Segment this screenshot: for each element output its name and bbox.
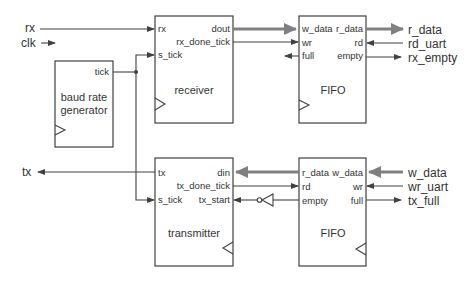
- rx-fifo-r-data-port-label: r_data: [336, 23, 364, 34]
- tx-fifo-wr-port-label: wr: [352, 181, 363, 192]
- rx-fifo-empty-port-label: empty: [337, 50, 363, 61]
- rx-fifo-wr-port-label: wr: [301, 37, 312, 48]
- transmitter-tx-done-tick-port-label: tx_done_tick: [177, 180, 231, 191]
- tick-to-transmitter-wire: [136, 72, 154, 200]
- rd-uart-signal-label: rd_uart: [408, 37, 447, 51]
- receiver-block: rx s_tick dout rx_done_tick receiver: [155, 16, 233, 123]
- rx-fifo-rd-port-label: rd: [355, 37, 363, 48]
- rx-fifo-block-label: FIFO: [320, 84, 345, 96]
- uart-block-diagram: tick baud rate generator rx s_tick dout …: [0, 0, 469, 283]
- transmitter-din-port-label: din: [217, 167, 230, 178]
- baud-rate-generator-block: tick baud rate generator: [55, 61, 113, 147]
- tick-to-receiver-wire: [136, 55, 154, 72]
- r-data-signal-label: r_data: [408, 23, 442, 37]
- receiver-block-label: receiver: [174, 84, 213, 96]
- transmitter-block: tx s_tick din tx_done_tick tx_start tran…: [155, 158, 233, 266]
- transmitter-tx-start-port-label: tx_start: [199, 194, 231, 205]
- tx-fifo-r-data-port-label: r_data: [302, 167, 330, 178]
- tx-signal-label: tx: [22, 165, 31, 179]
- tx-fifo-block: r_data rd empty w_data wr full FIFO: [299, 158, 366, 266]
- rx-fifo-block: w_data wr full r_data rd empty FIFO: [299, 16, 366, 123]
- rx-fifo-full-port-label: full: [302, 50, 314, 61]
- rx-signal-label: rx: [25, 21, 35, 35]
- w-data-signal-label: w_data: [407, 166, 447, 180]
- receiver-rx-done-tick-port-label: rx_done_tick: [176, 36, 230, 47]
- wr-uart-signal-label: wr_uart: [407, 180, 449, 194]
- rx-fifo-w-data-port-label: w_data: [301, 23, 333, 34]
- baud-tick-port-label: tick: [95, 66, 110, 77]
- tx-fifo-empty-port-label: empty: [302, 195, 328, 206]
- receiver-s-tick-port-label: s_tick: [158, 49, 183, 60]
- tx-fifo-rd-port-label: rd: [302, 181, 310, 192]
- tx-full-signal-label: tx_full: [408, 194, 439, 208]
- baud-block-label-line2: generator: [60, 104, 107, 116]
- receiver-rx-port-label: rx: [158, 23, 166, 34]
- rx-empty-signal-label: rx_empty: [408, 51, 457, 65]
- baud-block-label-line1: baud rate: [61, 91, 107, 103]
- receiver-dout-port-label: dout: [212, 23, 231, 34]
- tx-fifo-full-port-label: full: [351, 195, 363, 206]
- transmitter-block-label: transmitter: [168, 227, 220, 239]
- transmitter-s-tick-port-label: s_tick: [158, 194, 183, 205]
- tx-fifo-w-data-port-label: w_data: [331, 167, 363, 178]
- transmitter-tx-port-label: tx: [158, 167, 166, 178]
- clk-signal-label: clk: [21, 36, 37, 50]
- tx-fifo-block-label: FIFO: [320, 227, 345, 239]
- inverter-icon: [257, 194, 273, 206]
